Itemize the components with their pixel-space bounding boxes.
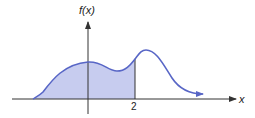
y-axis-label: f(x) xyxy=(79,4,95,16)
tick-label-2: 2 xyxy=(131,101,137,112)
x-axis-label: x xyxy=(238,93,245,105)
chart-svg: f(x) x 2 xyxy=(0,0,255,118)
shaded-area xyxy=(33,59,135,99)
density-chart: f(x) x 2 xyxy=(0,0,255,118)
